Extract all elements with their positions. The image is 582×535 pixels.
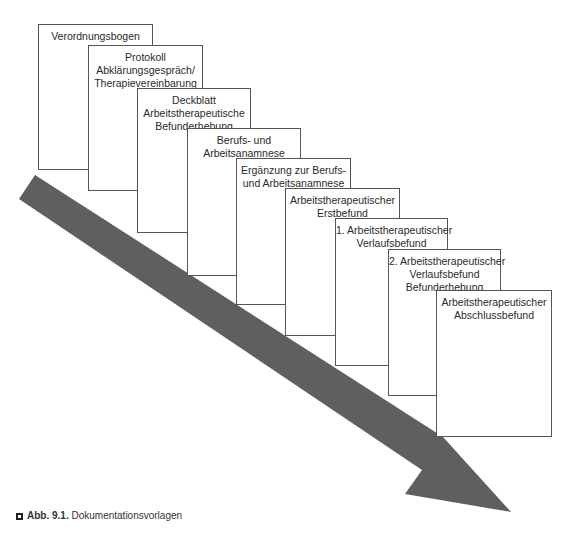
document-title-line: Verordnungsbogen bbox=[39, 30, 152, 43]
document-title-line: Deckblatt bbox=[138, 94, 250, 107]
documentation-templates-diagram: VerordnungsbogenProtokollAbklärungsgespr… bbox=[0, 0, 582, 535]
document-title-line: Ergänzung zur Berufs- bbox=[237, 164, 350, 177]
caption-text: Dokumentationsvorlagen bbox=[69, 510, 182, 521]
document-title-line: Abschlussbefund bbox=[437, 309, 551, 322]
document-title-line: Verlaufsbefund bbox=[389, 268, 500, 281]
caption-label: Abb. 9.1. bbox=[27, 510, 69, 521]
document-box: ArbeitstherapeutischerAbschlussbefund bbox=[436, 290, 552, 437]
document-title-line: Abklärungsgespräch/ bbox=[89, 64, 202, 77]
document-title-line: 1. Arbeitstherapeutischer bbox=[336, 224, 447, 237]
document-title-line: Protokoll bbox=[89, 51, 202, 64]
document-title-line: 2. Arbeitstherapeutischer bbox=[389, 255, 500, 268]
document-title-line: Arbeitstherapeutischer bbox=[437, 296, 551, 309]
document-title-line: Arbeitstherapeutischer bbox=[286, 194, 399, 207]
document-title-line: Arbeitstherapeutische bbox=[138, 107, 250, 120]
document-title-line: Berufs- und bbox=[188, 134, 300, 147]
caption-marker-icon bbox=[16, 513, 23, 520]
figure-caption: Abb. 9.1. Dokumentationsvorlagen bbox=[16, 510, 182, 521]
